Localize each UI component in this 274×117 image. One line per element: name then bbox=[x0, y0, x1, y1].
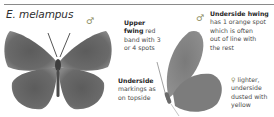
annotation-underside-hwing: Underside hwing has 1 orange spot which … bbox=[210, 10, 269, 52]
species-title: E. melampus bbox=[6, 8, 73, 20]
male-symbol-upperside: ♂ bbox=[86, 17, 94, 26]
top-rule bbox=[4, 4, 274, 5]
annotation-underside: Underside markings as on topside bbox=[118, 77, 156, 102]
underside-heading: Underside bbox=[118, 77, 154, 84]
underside-hwing-heading: Underside hwing bbox=[210, 10, 269, 17]
upper-fwing-heading: Upper bbox=[124, 19, 145, 26]
upperside-butterfly-image bbox=[2, 27, 114, 115]
annotation-female: ♀ lighter, underside dusted with yellow bbox=[231, 76, 267, 110]
male-symbol-underside: ♂ bbox=[196, 14, 204, 23]
